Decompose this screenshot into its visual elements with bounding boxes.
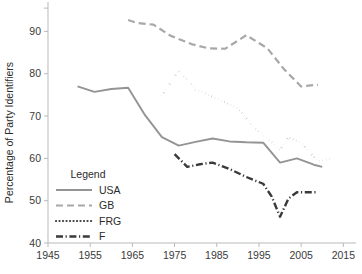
- series-line-f: [175, 154, 318, 217]
- axis-layer: [48, 2, 356, 243]
- x-tick-label: 2005: [289, 249, 313, 261]
- x-tick-label: 1985: [205, 249, 229, 261]
- y-axis-title-text: Percentage of Party Identifiers: [3, 62, 15, 203]
- chart-legend: LegendUSAGBFRGF: [56, 168, 121, 242]
- x-tick-label: 1995: [247, 249, 271, 261]
- y-tick-label: 80: [29, 67, 41, 79]
- x-tick-label: 1945: [36, 249, 60, 261]
- series-line-gb: [128, 20, 318, 86]
- legend-title: Legend: [70, 168, 105, 180]
- x-tick-label: 2015: [332, 249, 356, 261]
- x-tick-label: 1965: [121, 249, 145, 261]
- legend-label-frg: FRG: [99, 215, 121, 227]
- x-tick-layer: 19451955196519751985199520052015: [36, 243, 355, 261]
- line-chart: 405060708090 194519551965197519851995200…: [0, 0, 362, 274]
- y-axis-title: Percentage of Party Identifiers: [3, 62, 15, 203]
- y-tick-label: 50: [29, 194, 41, 206]
- chart-container: 405060708090 194519551965197519851995200…: [0, 0, 362, 274]
- y-tick-label: 90: [29, 25, 41, 37]
- x-tick-label: 1975: [163, 249, 187, 261]
- y-tick-label: 70: [29, 110, 41, 122]
- y-tick-label: 40: [29, 237, 41, 249]
- series-line-frg: [162, 70, 331, 161]
- y-tick-layer: 405060708090: [29, 8, 48, 248]
- x-tick-label: 1955: [79, 249, 103, 261]
- legend-label-usa: USA: [99, 184, 121, 196]
- y-tick-label: 60: [29, 152, 41, 164]
- legend-label-f: F: [99, 230, 105, 242]
- legend-label-gb: GB: [99, 199, 114, 211]
- series-line-usa: [78, 86, 323, 166]
